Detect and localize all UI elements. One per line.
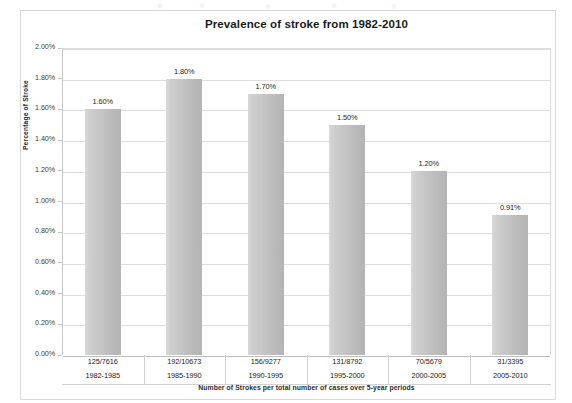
bar[interactable] (248, 94, 284, 355)
y-axis-tick-label: 1.00% (35, 196, 55, 205)
bar-value-label: 1.20% (419, 159, 439, 168)
category-label-cell: 192/106731985-1990 (144, 355, 226, 385)
category-label-cell: 70/56792000-2005 (388, 355, 470, 385)
category-axis: 125/76161982-1985192/106731985-1990156/9… (62, 355, 551, 385)
bar-slot: 0.91% (470, 48, 552, 355)
category-separator (470, 355, 471, 385)
y-axis-tick-label: 1.80% (35, 73, 55, 82)
category-label-cell: 156/92771990-1995 (225, 355, 307, 385)
category-label-cell: 131/87921995-2000 (307, 355, 389, 385)
bar[interactable] (166, 79, 202, 355)
category-ratio-label: 70/5679 (388, 357, 470, 366)
category-period-label: 1982-1985 (62, 371, 144, 380)
scan-artifact (130, 3, 430, 9)
y-axis-tick-label: 1.60% (35, 103, 55, 112)
bar[interactable] (411, 171, 447, 355)
y-axis-tick-label: 0.00% (35, 349, 55, 358)
y-axis-tick-label: 1.40% (35, 134, 55, 143)
bar[interactable] (492, 215, 528, 355)
bar[interactable] (85, 109, 121, 355)
y-axis-tick-label: 0.60% (35, 257, 55, 266)
y-axis-tick-label: 0.20% (35, 318, 55, 327)
category-separator (307, 355, 308, 385)
category-period-label: 1985-1990 (144, 371, 226, 380)
bar[interactable] (329, 125, 365, 355)
bar-value-label: 1.80% (174, 67, 194, 76)
y-axis-ticks: 2.00%1.80%1.60%1.40%1.20%1.00%0.80%0.60%… (0, 48, 62, 355)
y-axis-tick-label: 2.00% (35, 42, 55, 51)
category-ratio-label: 131/8792 (307, 357, 389, 366)
category-ratio-label: 31/3395 (470, 357, 552, 366)
category-period-label: 1990-1995 (225, 371, 307, 380)
chart-container: Prevalence of stroke from 1982-2010 2.00… (0, 0, 572, 403)
category-period-label: 2000-2005 (388, 371, 470, 380)
category-ratio-label: 192/10673 (144, 357, 226, 366)
category-separator (388, 355, 389, 385)
y-axis-title: Percentage of Stroke (22, 80, 29, 150)
category-label-cell: 31/33952005-2010 (470, 355, 552, 385)
category-separator (144, 355, 145, 385)
category-ratio-label: 156/9277 (225, 357, 307, 366)
bar-slot: 1.80% (144, 48, 226, 355)
bar-slot: 1.20% (388, 48, 470, 355)
category-period-label: 1995-2000 (307, 371, 389, 380)
chart-title: Prevalence of stroke from 1982-2010 (62, 18, 551, 30)
x-axis-title: Number of Strokes per total number of ca… (62, 384, 551, 391)
bar-slot: 1.50% (307, 48, 389, 355)
category-label-cell: 125/76161982-1985 (62, 355, 144, 385)
bars-layer: 1.60%1.80%1.70%1.50%1.20%0.91% (62, 48, 551, 355)
bar-value-label: 1.60% (93, 97, 113, 106)
y-axis-tick-label: 0.40% (35, 288, 55, 297)
bar-slot: 1.60% (62, 48, 144, 355)
y-axis-tick-label: 0.80% (35, 226, 55, 235)
category-separator (225, 355, 226, 385)
bar-value-label: 1.50% (337, 113, 357, 122)
category-period-label: 2005-2010 (470, 371, 552, 380)
bar-slot: 1.70% (225, 48, 307, 355)
bar-value-label: 1.70% (256, 82, 276, 91)
y-axis-tick-label: 1.20% (35, 165, 55, 174)
bar-value-label: 0.91% (500, 203, 520, 212)
category-ratio-label: 125/7616 (62, 357, 144, 366)
